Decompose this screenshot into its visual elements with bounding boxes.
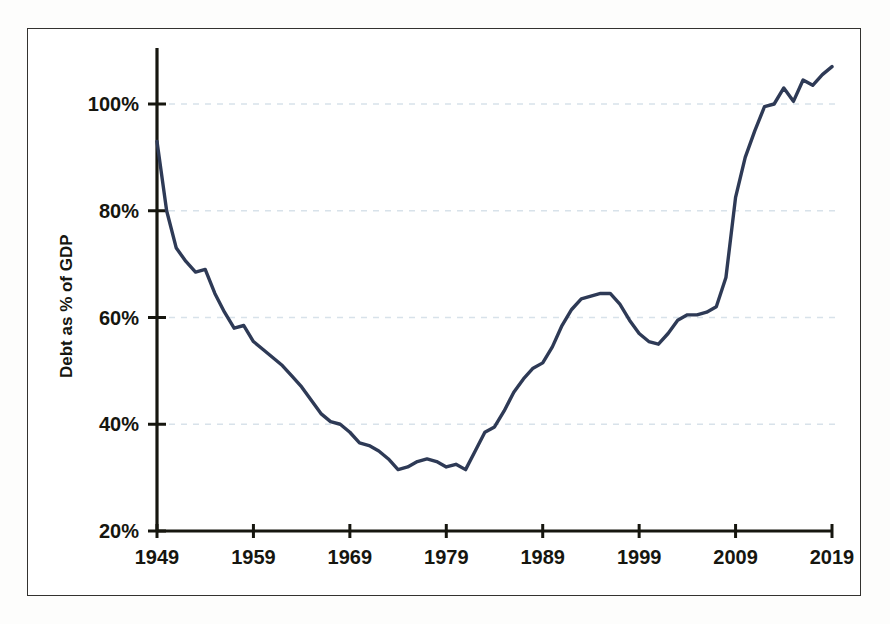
x-tick-label: 1989 bbox=[520, 546, 565, 568]
x-tick-label: 1959 bbox=[231, 546, 276, 568]
y-tick-label: 20% bbox=[99, 520, 139, 542]
y-tick-label: 80% bbox=[99, 200, 139, 222]
axes-group bbox=[157, 48, 832, 531]
y-ticks-group: 20%40%60%80%100% bbox=[88, 93, 166, 542]
data-line-debt-pct-gdp bbox=[157, 67, 832, 470]
y-tick-label: 60% bbox=[99, 307, 139, 329]
y-axis-title: Debt as % of GDP bbox=[57, 234, 76, 378]
x-tick-label: 1979 bbox=[424, 546, 469, 568]
gridlines-group bbox=[157, 104, 840, 424]
x-tick-label: 2009 bbox=[713, 546, 758, 568]
x-tick-label: 1999 bbox=[617, 546, 662, 568]
data-series-group bbox=[157, 67, 832, 470]
y-tick-label: 40% bbox=[99, 413, 139, 435]
x-tick-label: 1949 bbox=[135, 546, 180, 568]
chart-page: 20%40%60%80%100% 19491959196919791989199… bbox=[0, 0, 890, 624]
x-tick-label: 1969 bbox=[328, 546, 373, 568]
line-chart: 20%40%60%80%100% 19491959196919791989199… bbox=[0, 0, 890, 624]
x-tick-label: 2019 bbox=[810, 546, 855, 568]
y-tick-label: 100% bbox=[88, 93, 139, 115]
